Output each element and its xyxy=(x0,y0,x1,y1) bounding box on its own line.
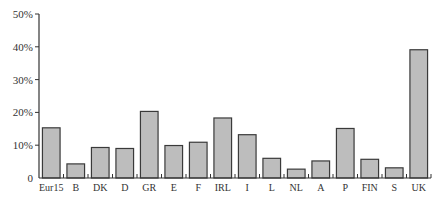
x-tick-label: E xyxy=(171,182,177,193)
x-tick-label: B xyxy=(72,182,79,193)
x-tick-label: I xyxy=(246,182,249,193)
bar-chart: 010%20%30%40%50% Eur15BDKDGREFIRLILNLAPF… xyxy=(0,0,442,198)
bar-i xyxy=(238,135,256,178)
bar-b xyxy=(67,164,85,178)
bar-a xyxy=(312,161,330,178)
y-tick-label: 30% xyxy=(13,74,33,86)
bars xyxy=(42,50,427,178)
bar-p xyxy=(336,128,354,178)
bar-uk xyxy=(410,50,428,178)
bar-l xyxy=(263,158,281,178)
y-tick-label: 50% xyxy=(13,8,33,20)
bar-e xyxy=(165,146,183,178)
y-tick-label: 20% xyxy=(13,106,33,118)
x-tick-label: IRL xyxy=(215,182,231,193)
bar-eur15 xyxy=(42,128,60,178)
x-tick-label: D xyxy=(121,182,128,193)
x-tick-label: FIN xyxy=(362,182,378,193)
bar-gr xyxy=(140,111,158,178)
x-tick-label: DK xyxy=(93,182,108,193)
bar-fin xyxy=(361,159,379,178)
x-tick-label: NL xyxy=(290,182,303,193)
bar-dk xyxy=(91,147,109,178)
y-axis: 010%20%30%40%50% xyxy=(13,8,39,184)
y-tick-label: 40% xyxy=(13,41,33,53)
x-tick-label: F xyxy=(195,182,201,193)
y-tick-label: 10% xyxy=(13,139,33,151)
x-tick-label: S xyxy=(391,182,397,193)
bar-irl xyxy=(214,118,232,178)
x-tick-label: UK xyxy=(412,182,427,193)
x-tick-label: L xyxy=(269,182,275,193)
y-tick-label: 0 xyxy=(28,172,34,184)
bar-s xyxy=(385,168,403,178)
bar-d xyxy=(116,148,134,178)
x-tick-label: A xyxy=(317,182,325,193)
x-tick-label: P xyxy=(342,182,348,193)
x-tick-label: GR xyxy=(142,182,156,193)
bar-f xyxy=(189,142,207,178)
x-tick-label: Eur15 xyxy=(39,182,63,193)
bar-nl xyxy=(287,169,305,178)
